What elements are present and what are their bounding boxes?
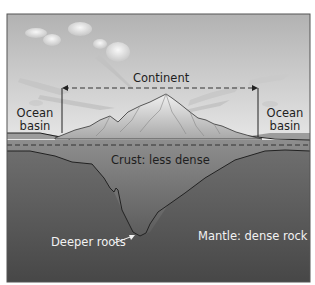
ocean-basin-right-line2: basin [262,120,308,133]
deeper-roots-label: Deeper roots [51,236,126,249]
ocean-basin-left-label: Ocean basin [12,107,58,133]
mantle-label: Mantle: dense rock [198,230,307,243]
crust-label: Crust: less dense [111,154,210,167]
ocean-basin-left-line2: basin [12,120,58,133]
continent-label: Continent [133,72,189,85]
ocean-basin-right-label: Ocean basin [262,107,308,133]
